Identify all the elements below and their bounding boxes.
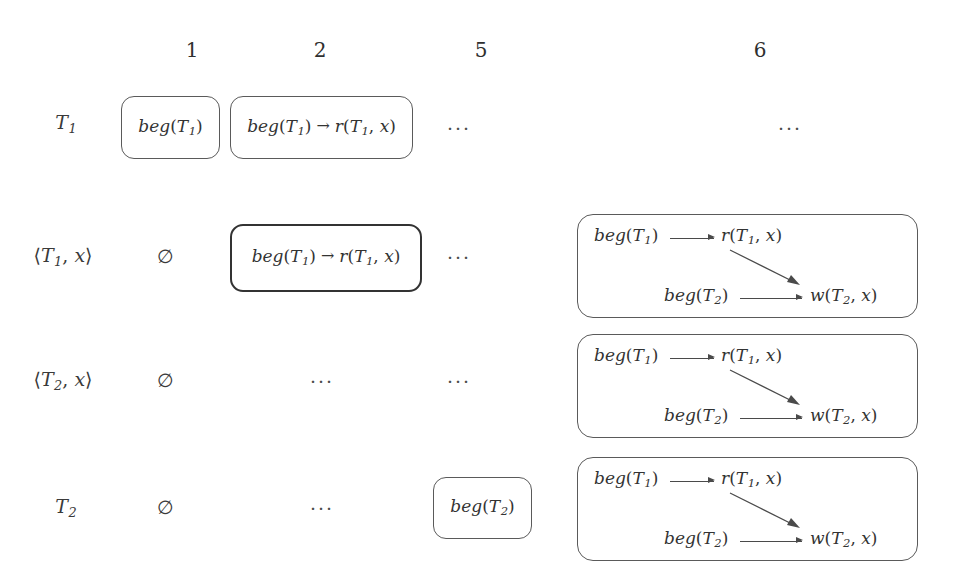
graph-node-beg-t1: beg(T1) — [594, 470, 658, 490]
figure-canvas: 1 2 5 6 T1 ⟨T1, x⟩ ⟨T2, x⟩ T2 beg(T1) be… — [0, 0, 967, 585]
cell-r1c6-ellipsis: ··· — [778, 117, 802, 139]
graph-node-r-t1-x: r(T1, x) — [721, 227, 782, 247]
formula-beg-t2: beg(T2) — [450, 498, 514, 518]
cell-r2c6-graph-box: beg(T1) r(T1, x) beg(T2) w(T2, x) — [577, 214, 918, 318]
graph-node-beg-t2: beg(T2) — [664, 530, 728, 550]
cell-r3c5-ellipsis: ··· — [447, 370, 471, 392]
row-label-t2: T2 — [55, 497, 76, 520]
graph-node-w-t2-x: w(T2, x) — [810, 530, 877, 550]
graph-edge-r-t1-x-to-w-t2-x — [728, 368, 808, 410]
cell-r4c6-graph-box: beg(T1) r(T1, x) beg(T2) w(T2, x) — [577, 457, 918, 561]
formula-beg-t1-to-r-t1-x: beg(T1)→r(T1, x) — [252, 248, 401, 268]
column-header-6: 6 — [754, 38, 767, 62]
cell-r3c6-graph-box: beg(T1) r(T1, x) beg(T2) w(T2, x) — [577, 334, 918, 438]
cell-r2c1-emptyset: ∅ — [157, 245, 174, 267]
row-label-t1: T1 — [55, 113, 76, 136]
cell-r1c2-box: beg(T1)→r(T1, x) — [230, 96, 413, 159]
formula-beg-t1-to-r-t1-x: beg(T1)→r(T1, x) — [247, 118, 396, 138]
graph-node-w-t2-x: w(T2, x) — [810, 407, 877, 427]
column-header-5: 5 — [475, 38, 488, 62]
graph-node-r-t1-x: r(T1, x) — [721, 347, 782, 367]
formula-beg-t1: beg(T1) — [138, 118, 202, 138]
cell-r2c2-box: beg(T1)→r(T1, x) — [230, 224, 422, 292]
graph-node-beg-t2: beg(T2) — [664, 407, 728, 427]
graph-node-r-t1-x: r(T1, x) — [721, 470, 782, 490]
graph-node-w-t2-x: w(T2, x) — [810, 287, 877, 307]
cell-r2c5-ellipsis: ··· — [447, 246, 471, 268]
graph-edge-beg-t2-to-w-t2-x — [740, 418, 802, 419]
cell-r3c1-emptyset: ∅ — [157, 369, 174, 391]
graph-edge-beg-t1-to-r-t1-x — [670, 481, 714, 482]
cell-r3c2-ellipsis: ··· — [310, 370, 334, 392]
cell-r1c1-box: beg(T1) — [121, 96, 220, 159]
row-label-t2-x: ⟨T2, x⟩ — [33, 370, 92, 393]
graph-edge-beg-t1-to-r-t1-x — [670, 238, 714, 239]
graph-edge-beg-t2-to-w-t2-x — [740, 298, 802, 299]
cell-r4c2-ellipsis: ··· — [310, 497, 334, 519]
cell-r1c5-ellipsis: ··· — [447, 117, 471, 139]
cell-r4c1-emptyset: ∅ — [157, 496, 174, 518]
graph-edge-beg-t2-to-w-t2-x — [740, 541, 802, 542]
column-header-1: 1 — [186, 38, 199, 62]
cell-r4c5-box: beg(T2) — [433, 477, 532, 539]
graph-node-beg-t2: beg(T2) — [664, 287, 728, 307]
row-label-t1-x: ⟨T1, x⟩ — [33, 246, 92, 269]
graph-edge-r-t1-x-to-w-t2-x — [728, 248, 808, 290]
graph-node-beg-t1: beg(T1) — [594, 347, 658, 367]
graph-edge-beg-t1-to-r-t1-x — [670, 358, 714, 359]
column-header-2: 2 — [314, 38, 327, 62]
graph-node-beg-t1: beg(T1) — [594, 227, 658, 247]
graph-edge-r-t1-x-to-w-t2-x — [728, 491, 808, 533]
